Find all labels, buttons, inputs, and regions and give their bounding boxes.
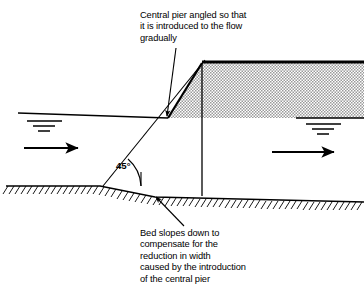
river-bed [3, 186, 364, 210]
central-pier [168, 62, 364, 196]
diagram-canvas: Central pier angled so that it is introd… [0, 0, 364, 304]
bed-slope-note: Bed slopes down to compensate for the re… [140, 228, 246, 285]
pier-angle-label: 45° [116, 160, 131, 171]
water-surface-left [18, 113, 168, 131]
water-surface-right [296, 118, 364, 134]
bed-profile-line [6, 186, 364, 202]
central-pier-note: Central pier angled so that it is introd… [140, 10, 246, 44]
